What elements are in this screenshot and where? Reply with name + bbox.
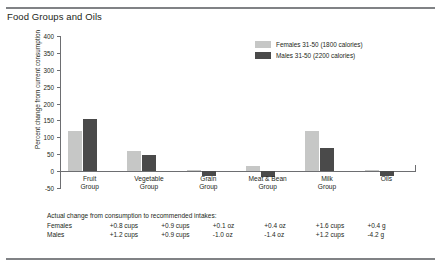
- bar-group: [179, 33, 238, 188]
- bottom-divider: [6, 258, 435, 260]
- table-row-label: Females: [47, 222, 110, 232]
- plot-area: Percent change from current consumption …: [0, 33, 441, 198]
- bar-females: [68, 131, 82, 172]
- table-cell: +0.4 g: [367, 222, 419, 232]
- bar-females: [127, 151, 141, 171]
- y-axis-tick-50: 50: [30, 151, 54, 158]
- y-axis-tickmark-0: [57, 171, 61, 172]
- figure-container: Food Groups and Oils Percent change from…: [0, 0, 441, 266]
- legend-label-males: Males 31-50 (2200 calories): [276, 52, 355, 59]
- top-divider: [6, 7, 435, 9]
- bar-males: [142, 155, 156, 171]
- figure-title: Food Groups and Oils: [7, 11, 102, 22]
- x-axis-category-label: Oils: [350, 175, 422, 183]
- bar-group: [119, 33, 178, 188]
- table-cell: +0.9 cups: [161, 231, 213, 241]
- table-cell: +1.6 cups: [316, 222, 368, 232]
- footnote-table-body: Females+0.8 cups+0.9 cups+0.1 oz+0.4 oz+…: [47, 222, 419, 241]
- bar-group: [357, 33, 416, 188]
- y-axis-tick-300: 300: [30, 66, 54, 73]
- legend-label-females: Females 31-50 (1800 calories): [276, 41, 363, 48]
- table-row: Males+1.2 cups+0.9 cups-1.0 oz-1.4 oz+1.…: [47, 231, 419, 241]
- y-axis-tick-400: 400: [30, 33, 54, 40]
- y-axis-tickmark-300: [57, 70, 61, 71]
- table-cell: +0.4 oz: [264, 222, 316, 232]
- legend: Females 31-50 (1800 calories) Males 31-5…: [255, 40, 363, 61]
- bar-females: [187, 170, 201, 171]
- table-row-label: Males: [47, 231, 110, 241]
- table-cell: -1.4 oz: [264, 231, 316, 241]
- y-axis-tick-0: 0: [30, 168, 54, 175]
- bar-females: [365, 170, 379, 171]
- y-axis-tickmark-400: [57, 36, 61, 37]
- y-axis-tick-labels: -50050100150200250300350400: [30, 33, 54, 185]
- y-axis-tickmark-200: [57, 104, 61, 105]
- bar-females: [246, 166, 260, 171]
- y-axis-tickmark-250: [57, 87, 61, 88]
- y-axis-tick-250: 250: [30, 83, 54, 90]
- y-axis-tick-200: 200: [30, 100, 54, 107]
- bar-males: [83, 119, 97, 171]
- table-cell: +1.2 cups: [316, 231, 368, 241]
- footnote-caption: Actual change from consumption to recomm…: [47, 212, 437, 219]
- table-cell: +0.9 cups: [161, 222, 213, 232]
- y-axis-tick--50: -50: [30, 185, 54, 192]
- y-axis-tickmark-150: [57, 120, 61, 121]
- table-cell: -4.2 g: [367, 231, 419, 241]
- bar-females: [305, 131, 319, 172]
- bar-males: [320, 148, 334, 171]
- legend-item-females: Females 31-50 (1800 calories): [255, 40, 363, 49]
- table-row: Females+0.8 cups+0.9 cups+0.1 oz+0.4 oz+…: [47, 222, 419, 232]
- legend-swatch-icon-females: [255, 41, 271, 48]
- table-cell: +0.1 oz: [213, 222, 265, 232]
- y-axis-tickmark-350: [57, 53, 61, 54]
- y-axis-tick-150: 150: [30, 117, 54, 124]
- legend-swatch-icon-males: [255, 52, 271, 59]
- y-axis-tickmark-50: [57, 154, 61, 155]
- y-axis-tick-100: 100: [30, 134, 54, 141]
- table-cell: +1.2 cups: [110, 231, 162, 241]
- legend-item-males: Males 31-50 (2200 calories): [255, 51, 363, 60]
- bar-group: [60, 33, 119, 188]
- footnote-table-wrapper: Actual change from consumption to recomm…: [47, 212, 437, 241]
- y-axis-tick-350: 350: [30, 49, 54, 56]
- table-cell: -1.0 oz: [213, 231, 265, 241]
- footnote-table: Females+0.8 cups+0.9 cups+0.1 oz+0.4 oz+…: [47, 222, 419, 241]
- y-axis-tickmark-100: [57, 137, 61, 138]
- table-cell: +0.8 cups: [110, 222, 162, 232]
